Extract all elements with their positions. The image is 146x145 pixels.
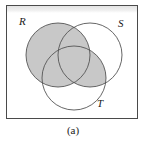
set-label-R: R [19, 16, 26, 27]
figure-caption: (a) [0, 124, 146, 136]
venn-diagram-figure: R S T (a) [0, 0, 146, 145]
set-label-S: S [118, 18, 124, 29]
set-label-T: T [97, 98, 103, 109]
